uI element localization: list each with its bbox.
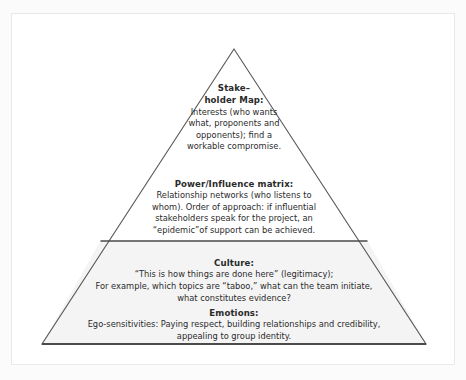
tier-emotions-title: Emotions: xyxy=(34,307,434,319)
tier-body-line: what, proponents and xyxy=(120,118,348,130)
tier-stakeholder-map-title: Stake– holder Map: xyxy=(120,83,348,107)
tier-body-line: “epidemic”of support can be achieved. xyxy=(68,225,400,237)
tier-power-influence-matrix: Power/Influence matrix: Relationship net… xyxy=(68,178,400,237)
tier-title-line: Culture: xyxy=(42,257,426,269)
tier-body-line: workable compromise. xyxy=(120,141,348,153)
tier-title-line: Stake– xyxy=(120,83,348,95)
tier-emotions: Emotions: Ego-sensitivities: Paying resp… xyxy=(34,307,434,343)
tier-stakeholder-map: Stake– holder Map: Interests (who wants … xyxy=(120,83,348,153)
tier-body-line: Relationship networks (who listens to xyxy=(68,190,400,202)
figure-page: Stake– holder Map: Interests (who wants … xyxy=(0,0,466,380)
tier-body-line: what constitutes evidence? xyxy=(42,293,426,305)
tier-title-line: Power/Influence matrix: xyxy=(68,178,400,190)
tier-body-line: stakeholders speak for the project, an xyxy=(68,213,400,225)
tier-culture-title: Culture: xyxy=(42,257,426,269)
tier-title-line: Emotions: xyxy=(34,307,434,319)
figure-card: Stake– holder Map: Interests (who wants … xyxy=(11,13,455,365)
tier-culture: Culture: “This is how things are done he… xyxy=(42,257,426,304)
tier-power-influence-body: Relationship networks (who listens to wh… xyxy=(68,190,400,237)
tier-stakeholder-map-body: Interests (who wants what, proponents an… xyxy=(120,107,348,153)
tier-emotions-body: Ego-sensitivities: Paying respect, build… xyxy=(34,319,434,343)
tier-body-line: “This is how things are done here” (legi… xyxy=(42,269,426,281)
tier-culture-body: “This is how things are done here” (legi… xyxy=(42,269,426,304)
tier-body-line: For example, which topics are “taboo,” w… xyxy=(42,281,426,293)
tier-body-line: opponents); find a xyxy=(120,130,348,142)
tier-title-line: holder Map: xyxy=(120,95,348,107)
tier-body-line: Ego-sensitivities: Paying respect, build… xyxy=(34,319,434,331)
tier-body-line: whom). Order of approach: if influential xyxy=(68,202,400,214)
tier-body-line: Interests (who wants xyxy=(120,107,348,119)
pyramid-diagram: Stake– holder Map: Interests (who wants … xyxy=(12,14,456,366)
tier-power-influence-title: Power/Influence matrix: xyxy=(68,178,400,190)
tier-body-line: appealing to group identity. xyxy=(34,331,434,343)
